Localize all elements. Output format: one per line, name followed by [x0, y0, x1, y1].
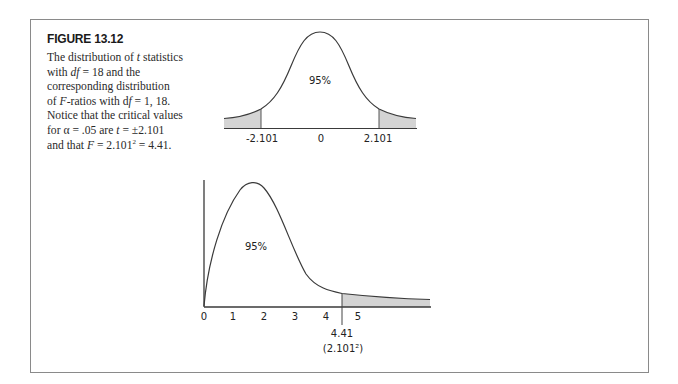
f-tick-2: 2 — [261, 311, 267, 322]
f-tick-1: 1 — [230, 311, 236, 322]
t-distribution-chart: 95% -2.101 0 2.101 — [224, 32, 417, 144]
t-center-label: 95% — [309, 75, 331, 86]
f-right-tail-shade — [342, 294, 430, 308]
f-tick-4: 4 — [323, 311, 329, 322]
charts-canvas: 95% -2.101 0 2.101 95% 0 1 2 3 4 5 4.41 … — [0, 0, 678, 384]
t-tick-pos: 2.101 — [364, 133, 393, 144]
f-tick-3: 3 — [292, 311, 298, 322]
f-critical-sublabel: (2.101²) — [323, 343, 364, 354]
f-distribution-chart: 95% 0 1 2 3 4 5 4.41 (2.101²) — [201, 180, 431, 354]
f-critical-label: 4.41 — [331, 328, 353, 339]
t-tick-zero: 0 — [318, 133, 324, 144]
f-tick-0: 0 — [201, 311, 207, 322]
t-tick-neg: -2.101 — [246, 133, 278, 144]
f-curve — [204, 183, 430, 306]
f-center-label: 95% — [245, 241, 267, 252]
f-tick-5: 5 — [355, 311, 361, 322]
